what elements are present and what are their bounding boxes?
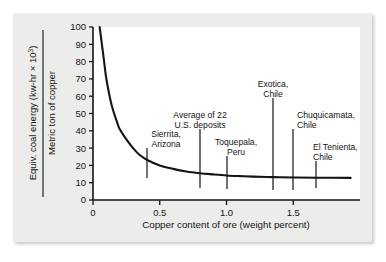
y-axis-title-numerator: Equiv. coal energy (kw-hr × 103) (27, 46, 38, 181)
annotation-label-average-of-22-us-deposits: Average of 22U.S. deposits (173, 110, 227, 130)
y-tick-label: 70 (75, 73, 86, 84)
x-tick-label: 0.5 (153, 207, 166, 218)
y-tick-label: 60 (75, 91, 86, 102)
y-axis-tick-labels: 0102030405060708090100 (70, 21, 86, 205)
x-tick-label: 0 (90, 207, 95, 218)
y-tick-label: 80 (75, 56, 86, 67)
annotation-label-el-tenienta-chile: El Tenienta,Chile (313, 142, 358, 162)
y-axis-title-denominator: Metric ton of copper (46, 71, 57, 155)
annotation-labels: Sierrita,ArizonaAverage of 22U.S. deposi… (151, 79, 358, 162)
y-tick-label: 50 (75, 108, 86, 119)
y-axis-title: Equiv. coal energy (kw-hr × 103) Metric … (27, 30, 57, 197)
x-tick-label: 1.5 (287, 207, 300, 218)
y-tick-label: 90 (75, 39, 86, 50)
y-tick-label: 30 (75, 143, 86, 154)
x-axis-title: Copper content of ore (weight percent) (142, 219, 310, 230)
x-tick-label: 1.0 (220, 207, 233, 218)
y-tick-label: 10 (75, 177, 86, 188)
y-tick-label: 20 (75, 160, 86, 171)
x-axis-tick-labels: 00.51.01.5 (90, 207, 300, 218)
figure-root: 0102030405060708090100 00.51.01.5 Sierri… (0, 0, 386, 262)
copper-ore-energy-chart: 0102030405060708090100 00.51.01.5 Sierri… (0, 0, 386, 262)
y-tick-label: 40 (75, 125, 86, 136)
y-tick-label: 0 (81, 194, 86, 205)
annotation-label-exotica-chile: Exotica,Chile (258, 79, 289, 99)
y-tick-label: 100 (70, 21, 86, 32)
annotation-label-sierrita-arizona: Sierrita,Arizona (151, 129, 181, 149)
annotation-label-chuquicamata-chile: Chuquicamata,Chile (297, 110, 355, 130)
annotation-label-toquepala-peru: Toquepala,Peru (215, 137, 257, 157)
